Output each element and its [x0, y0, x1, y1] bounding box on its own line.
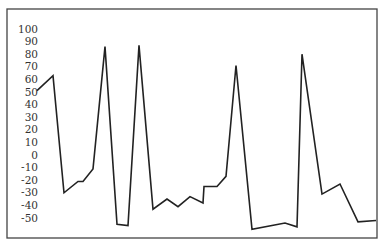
y-tick-label: -50 — [21, 212, 38, 224]
y-tick-label: 40 — [25, 98, 38, 110]
y-tick-label: -20 — [21, 174, 38, 186]
y-tick-label: -10 — [21, 161, 38, 173]
y-tick-label: 90 — [25, 35, 38, 47]
y-tick-label: 100 — [18, 23, 38, 35]
y-tick-label: 60 — [25, 73, 38, 85]
y-tick-label: 70 — [25, 60, 38, 72]
data-line — [37, 45, 376, 229]
y-tick-label: 0 — [31, 149, 38, 161]
y-tick-label: 50 — [25, 86, 38, 98]
y-tick-label: 30 — [25, 111, 38, 123]
y-tick-label: 80 — [25, 48, 38, 60]
y-tick-label: 20 — [25, 123, 38, 135]
y-axis-tick-labels: 1009080706050403020100-10-20-30-40-50 — [18, 23, 38, 224]
plot-frame — [7, 9, 377, 238]
line-chart: 1009080706050403020100-10-20-30-40-50 — [0, 0, 381, 243]
y-tick-label: -30 — [21, 186, 38, 198]
y-tick-label: -40 — [21, 199, 38, 211]
y-tick-label: 10 — [25, 136, 38, 148]
